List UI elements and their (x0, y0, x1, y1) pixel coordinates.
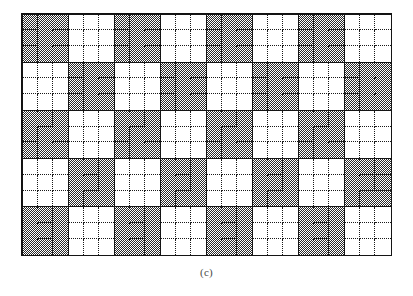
cell (268, 63, 283, 79)
cell (253, 94, 268, 110)
cell (69, 175, 84, 191)
cell (345, 111, 360, 127)
block-r2-c1 (22, 62, 69, 111)
cell (53, 63, 68, 79)
block-r2-c6 (252, 62, 299, 111)
cell (145, 159, 160, 175)
cell (176, 142, 191, 158)
cell (207, 127, 222, 143)
cell (23, 207, 38, 223)
cell (161, 15, 176, 31)
block-r4-c4 (160, 158, 207, 207)
cell (130, 127, 145, 143)
cell (329, 223, 344, 239)
cell (268, 78, 283, 94)
cell (191, 239, 206, 255)
cell (222, 30, 237, 46)
block-r2-c2 (68, 62, 115, 111)
cell (268, 239, 283, 255)
cell (191, 111, 206, 127)
cell (222, 94, 237, 110)
cell (161, 223, 176, 239)
cell (145, 127, 160, 143)
cell (360, 94, 375, 110)
cell (268, 127, 283, 143)
cell (191, 191, 206, 207)
cell (222, 223, 237, 239)
cell (23, 223, 38, 239)
cell (176, 46, 191, 62)
cell (84, 239, 99, 255)
block-r3-c2 (68, 110, 115, 159)
block-r1-c7 (298, 14, 345, 63)
cell (360, 30, 375, 46)
cell (115, 175, 130, 191)
cell (53, 15, 68, 31)
cell (53, 94, 68, 110)
cell (84, 191, 99, 207)
cell (222, 46, 237, 62)
cell (222, 175, 237, 191)
cell (207, 30, 222, 46)
cell (99, 30, 114, 46)
cell (375, 46, 390, 62)
cell (130, 30, 145, 46)
cell (115, 78, 130, 94)
cell (314, 207, 329, 223)
cell (69, 78, 84, 94)
cell (283, 94, 298, 110)
block-r3-c5 (206, 110, 253, 159)
cell (222, 111, 237, 127)
cell (207, 159, 222, 175)
cell (237, 63, 252, 79)
cell (283, 207, 298, 223)
cell (69, 159, 84, 175)
cell (191, 175, 206, 191)
cell (207, 63, 222, 79)
cell (191, 63, 206, 79)
cell (299, 191, 314, 207)
cell (329, 142, 344, 158)
cell (191, 127, 206, 143)
cell (345, 159, 360, 175)
cell (130, 78, 145, 94)
cell (207, 207, 222, 223)
cell (329, 127, 344, 143)
cell (360, 127, 375, 143)
cell (84, 63, 99, 79)
cell (53, 239, 68, 255)
cell (130, 159, 145, 175)
cell (23, 15, 38, 31)
block-r3-c8 (344, 110, 391, 159)
block-r4-c7 (298, 158, 345, 207)
cell (329, 159, 344, 175)
cell (375, 175, 390, 191)
cell (329, 46, 344, 62)
cell (237, 191, 252, 207)
block-r5-c8 (344, 206, 391, 255)
cell (237, 175, 252, 191)
cell (207, 94, 222, 110)
cell (253, 207, 268, 223)
cell (283, 175, 298, 191)
cell (237, 239, 252, 255)
cell (375, 191, 390, 207)
cell (253, 78, 268, 94)
block-r4-c3 (114, 158, 161, 207)
cell (115, 111, 130, 127)
cell (329, 207, 344, 223)
cell (329, 94, 344, 110)
cell (145, 239, 160, 255)
cell (299, 223, 314, 239)
cell (99, 191, 114, 207)
cell (115, 127, 130, 143)
cell (314, 15, 329, 31)
cell (345, 142, 360, 158)
cell (69, 30, 84, 46)
cell (299, 94, 314, 110)
cell (115, 239, 130, 255)
cell (23, 191, 38, 207)
cell (145, 30, 160, 46)
cell (176, 175, 191, 191)
cell (222, 78, 237, 94)
